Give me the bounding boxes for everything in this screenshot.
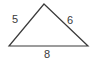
triangle-figure: 5 6 8 [0,0,96,64]
right-side-length-label: 6 [67,15,73,26]
bottom-side-length-label: 8 [44,49,50,60]
left-side-length-label: 5 [12,14,18,25]
triangle-outline [9,4,88,46]
